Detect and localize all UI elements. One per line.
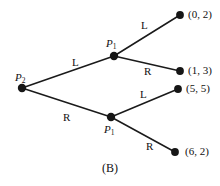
payoff-label-5-5: (5, 5) [186, 83, 210, 94]
edge-root-to-p1-upper [22, 56, 114, 88]
edge-label-root-left: L [72, 57, 79, 68]
node-label-p1-lower: P1 [104, 124, 114, 135]
node-label-root-p2: P2 [15, 72, 25, 83]
node-terminal-1-3 [176, 67, 184, 75]
node-p1-lower [107, 113, 115, 121]
edge-label-p1-upper-left: L [141, 20, 148, 31]
node-p1-upper [110, 52, 118, 60]
node-root-p2 [18, 84, 26, 92]
node-label-p1-upper: P1 [106, 38, 116, 49]
edge-label-root-right: R [63, 112, 71, 123]
payoff-label-6-2: (6, 2) [185, 146, 209, 157]
game-tree-figure: P2 P1 P1 L R L R L R (0, 2) (1, 3) (5, 5… [0, 0, 220, 186]
node-terminal-0-2 [176, 11, 184, 19]
node-terminal-6-2 [171, 148, 179, 156]
nodes-group [18, 11, 184, 156]
edge-label-p1-upper-right: R [144, 66, 152, 77]
edge-p1-lower-to-payoff-6-2 [111, 117, 175, 152]
edge-label-p1-lower-right: R [146, 141, 154, 152]
node-terminal-5-5 [174, 85, 182, 93]
payoff-label-0-2: (0, 2) [188, 9, 212, 20]
figure-caption: (B) [0, 162, 220, 174]
edges-group [22, 15, 180, 152]
edge-label-p1-lower-left: L [140, 89, 147, 100]
payoff-label-1-3: (1, 3) [188, 65, 212, 76]
